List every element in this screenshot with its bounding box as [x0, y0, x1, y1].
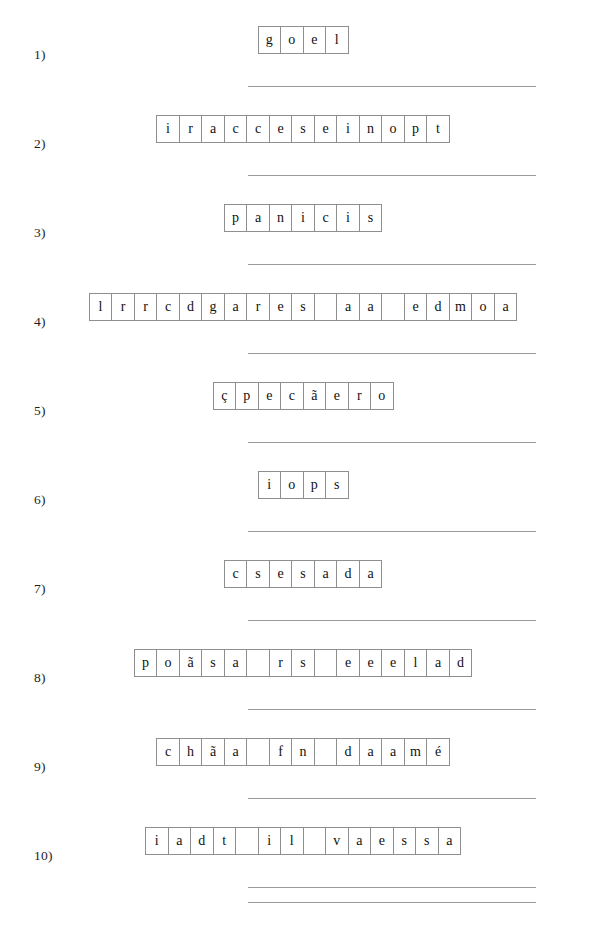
letter-tile[interactable]: n	[359, 115, 383, 143]
letter-tile[interactable]: s	[359, 204, 383, 232]
letter-tile[interactable]: ã	[303, 382, 327, 410]
blank-tile[interactable]	[235, 827, 259, 855]
letter-tile[interactable]: o	[280, 26, 304, 54]
letter-tile[interactable]: s	[291, 115, 315, 143]
letter-tile[interactable]: a	[348, 827, 372, 855]
blank-tile[interactable]	[314, 293, 338, 321]
letter-tile[interactable]: d	[179, 293, 203, 321]
letter-tile[interactable]: s	[246, 560, 270, 588]
letter-tile[interactable]: e	[269, 115, 293, 143]
letter-tile[interactable]: r	[111, 293, 135, 321]
letter-tile[interactable]: s	[325, 471, 349, 499]
letter-tile[interactable]: a	[224, 649, 248, 677]
letter-tile[interactable]: r	[348, 382, 372, 410]
letter-tile[interactable]: m	[404, 738, 428, 766]
letter-tile[interactable]: p	[224, 204, 248, 232]
letter-tile[interactable]: o	[471, 293, 495, 321]
letter-tile[interactable]: ã	[201, 738, 225, 766]
letter-tile[interactable]: p	[235, 382, 259, 410]
blank-tile[interactable]	[381, 293, 405, 321]
letter-tile[interactable]: l	[325, 26, 349, 54]
letter-tile[interactable]: l	[404, 649, 428, 677]
letter-tile[interactable]: s	[201, 649, 225, 677]
letter-tile[interactable]: r	[179, 115, 203, 143]
letter-tile[interactable]: ç	[213, 382, 237, 410]
letter-tile[interactable]: n	[269, 204, 293, 232]
letter-tile[interactable]: a	[426, 649, 450, 677]
letter-tile[interactable]: a	[381, 738, 405, 766]
letter-tile[interactable]: o	[381, 115, 405, 143]
letter-tile[interactable]: t	[213, 827, 237, 855]
letter-tile[interactable]: t	[426, 115, 450, 143]
letter-tile[interactable]: g	[258, 26, 282, 54]
letter-tile[interactable]: n	[291, 738, 315, 766]
letter-tile[interactable]: a	[359, 738, 383, 766]
letter-tile[interactable]: e	[269, 293, 293, 321]
letter-tile[interactable]: c	[224, 560, 248, 588]
letter-tile[interactable]: c	[224, 115, 248, 143]
letter-tile[interactable]: e	[381, 649, 405, 677]
letter-tile[interactable]: d	[449, 649, 473, 677]
letter-tile[interactable]: r	[269, 649, 293, 677]
blank-tile[interactable]	[246, 649, 270, 677]
letter-tile[interactable]: r	[134, 293, 158, 321]
letter-tile[interactable]: a	[224, 738, 248, 766]
letter-tile[interactable]: a	[224, 293, 248, 321]
letter-tile[interactable]: e	[404, 293, 428, 321]
letter-tile[interactable]: s	[415, 827, 439, 855]
letter-tile[interactable]: é	[426, 738, 450, 766]
letter-tile[interactable]: a	[336, 293, 360, 321]
letter-tile[interactable]: e	[370, 827, 394, 855]
blank-tile[interactable]	[303, 827, 327, 855]
letter-tile[interactable]: d	[336, 738, 360, 766]
letter-tile[interactable]: s	[291, 560, 315, 588]
letter-tile[interactable]: p	[134, 649, 158, 677]
letter-tile[interactable]: h	[179, 738, 203, 766]
letter-tile[interactable]: o	[156, 649, 180, 677]
letter-tile[interactable]: i	[156, 115, 180, 143]
letter-tile[interactable]: s	[291, 649, 315, 677]
letter-tile[interactable]: g	[201, 293, 225, 321]
letter-tile[interactable]: e	[314, 115, 338, 143]
letter-tile[interactable]: r	[246, 293, 270, 321]
blank-tile[interactable]	[314, 649, 338, 677]
letter-tile[interactable]: a	[314, 560, 338, 588]
letter-tile[interactable]: a	[494, 293, 518, 321]
blank-tile[interactable]	[314, 738, 338, 766]
letter-tile[interactable]: p	[303, 471, 327, 499]
letter-tile[interactable]: a	[168, 827, 192, 855]
letter-tile[interactable]: d	[426, 293, 450, 321]
letter-tile[interactable]: i	[291, 204, 315, 232]
letter-tile[interactable]: a	[246, 204, 270, 232]
letter-tile[interactable]: e	[269, 560, 293, 588]
letter-tile[interactable]: o	[370, 382, 394, 410]
letter-tile[interactable]: d	[336, 560, 360, 588]
letter-tile[interactable]: d	[190, 827, 214, 855]
letter-tile[interactable]: a	[359, 293, 383, 321]
letter-tile[interactable]: v	[325, 827, 349, 855]
letter-tile[interactable]: p	[404, 115, 428, 143]
letter-tile[interactable]: e	[359, 649, 383, 677]
letter-tile[interactable]: a	[438, 827, 462, 855]
letter-tile[interactable]: a	[359, 560, 383, 588]
letter-tile[interactable]: l	[280, 827, 304, 855]
letter-tile[interactable]: i	[336, 204, 360, 232]
letter-tile[interactable]: c	[314, 204, 338, 232]
letter-tile[interactable]: e	[336, 649, 360, 677]
letter-tile[interactable]: c	[156, 738, 180, 766]
blank-tile[interactable]	[246, 738, 270, 766]
letter-tile[interactable]: s	[291, 293, 315, 321]
letter-tile[interactable]: i	[258, 471, 282, 499]
letter-tile[interactable]: f	[269, 738, 293, 766]
letter-tile[interactable]: i	[258, 827, 282, 855]
letter-tile[interactable]: l	[89, 293, 113, 321]
letter-tile[interactable]: s	[393, 827, 417, 855]
letter-tile[interactable]: e	[325, 382, 349, 410]
letter-tile[interactable]: m	[449, 293, 473, 321]
letter-tile[interactable]: i	[145, 827, 169, 855]
letter-tile[interactable]: c	[246, 115, 270, 143]
letter-tile[interactable]: a	[201, 115, 225, 143]
letter-tile[interactable]: i	[336, 115, 360, 143]
letter-tile[interactable]: o	[280, 471, 304, 499]
letter-tile[interactable]: e	[303, 26, 327, 54]
